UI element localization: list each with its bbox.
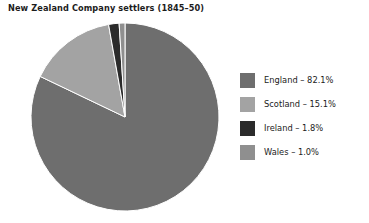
legend-item: England – 82.1% <box>240 68 369 92</box>
legend-item: Wales – 1.0% <box>240 140 369 164</box>
legend-swatch <box>240 121 255 136</box>
legend-label: Wales – 1.0% <box>264 148 319 156</box>
legend-swatch <box>240 73 255 88</box>
pie-slice-group <box>31 23 219 211</box>
pie-chart <box>31 23 219 211</box>
chart-title: New Zealand Company settlers (1845–50) <box>8 3 204 13</box>
legend-label: Ireland – 1.8% <box>264 124 323 132</box>
legend-item: Scotland – 15.1% <box>240 92 369 116</box>
chart-legend: England – 82.1%Scotland – 15.1%Ireland –… <box>240 68 369 164</box>
legend-swatch <box>240 145 255 160</box>
legend-item: Ireland – 1.8% <box>240 116 369 140</box>
legend-label: England – 82.1% <box>264 76 333 84</box>
pie-chart-svg <box>31 23 219 211</box>
legend-label: Scotland – 15.1% <box>264 100 336 108</box>
legend-swatch <box>240 97 255 112</box>
